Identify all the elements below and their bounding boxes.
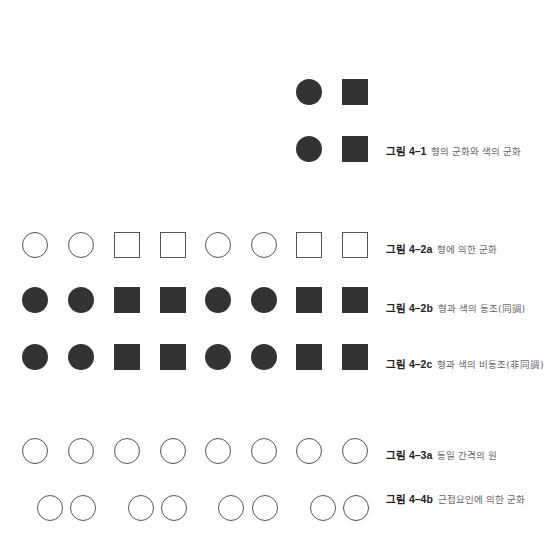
filled-square-shape: [342, 136, 368, 162]
outline-circle-shape: [252, 495, 278, 521]
caption-description: 동일 간격의 원: [437, 450, 497, 461]
caption-description: 형과 색의 동조(同調): [438, 303, 525, 314]
caption-number: 그림 4–4b: [386, 493, 433, 505]
caption-figure-4-3a: 그림 4–3a동일 간격의 원: [386, 449, 497, 462]
filled-square-shape: [342, 79, 368, 105]
filled-circle-shape: [68, 287, 94, 313]
filled-square-shape: [160, 344, 186, 370]
filled-circle-shape: [296, 136, 322, 162]
outline-circle-shape: [296, 438, 322, 464]
caption-description: 근접요인에 의한 군화: [438, 494, 525, 505]
filled-circle-shape: [205, 287, 231, 313]
outline-circle-shape: [205, 232, 231, 258]
outline-square-shape: [160, 232, 186, 258]
caption-figure-4-2b: 그림 4–2b형과 색의 동조(同調): [386, 302, 525, 315]
caption-figure-4-4b: 그림 4–4b근접요인에 의한 군화: [386, 493, 525, 506]
caption-figure-4-1: 그림 4–1형의 군화와 색의 군화: [386, 145, 522, 158]
filled-square-shape: [114, 344, 140, 370]
outline-square-shape: [296, 232, 322, 258]
filled-circle-shape: [296, 79, 322, 105]
caption-figure-4-2a: 그림 4–2a형에 의한 군화: [386, 243, 497, 256]
outline-circle-shape: [37, 495, 63, 521]
outline-circle-shape: [160, 438, 186, 464]
outline-circle-shape: [68, 232, 94, 258]
filled-square-shape: [342, 344, 368, 370]
caption-description: 형에 의한 군화: [437, 244, 497, 255]
caption-description: 형과 색의 비동조(非同調): [437, 359, 543, 370]
filled-square-shape: [114, 287, 140, 313]
outline-circle-shape: [310, 495, 336, 521]
caption-number: 그림 4–3a: [386, 449, 432, 461]
filled-circle-shape: [22, 287, 48, 313]
caption-figure-4-2c: 그림 4–2c형과 색의 비동조(非同調): [386, 358, 544, 371]
filled-circle-shape: [68, 344, 94, 370]
gestalt-figures-page: [0, 0, 552, 558]
outline-circle-shape: [343, 495, 369, 521]
caption-number: 그림 4–1: [386, 145, 426, 157]
outline-circle-shape: [68, 438, 94, 464]
filled-circle-shape: [251, 344, 277, 370]
filled-circle-shape: [205, 344, 231, 370]
outline-circle-shape: [205, 438, 231, 464]
outline-circle-shape: [114, 438, 140, 464]
outline-circle-shape: [70, 495, 96, 521]
outline-circle-shape: [161, 495, 187, 521]
outline-square-shape: [114, 232, 140, 258]
caption-number: 그림 4–2b: [386, 302, 433, 314]
filled-square-shape: [160, 287, 186, 313]
outline-circle-shape: [22, 438, 48, 464]
caption-description: 형의 군화와 색의 군화: [431, 146, 521, 157]
outline-square-shape: [342, 232, 368, 258]
outline-circle-shape: [22, 232, 48, 258]
outline-circle-shape: [342, 438, 368, 464]
outline-circle-shape: [251, 438, 277, 464]
filled-square-shape: [296, 287, 322, 313]
filled-square-shape: [342, 287, 368, 313]
filled-circle-shape: [251, 287, 277, 313]
outline-circle-shape: [218, 495, 244, 521]
outline-circle-shape: [251, 232, 277, 258]
caption-number: 그림 4–2a: [386, 243, 432, 255]
outline-circle-shape: [128, 495, 154, 521]
caption-number: 그림 4–2c: [386, 358, 432, 370]
filled-circle-shape: [22, 344, 48, 370]
filled-square-shape: [296, 344, 322, 370]
